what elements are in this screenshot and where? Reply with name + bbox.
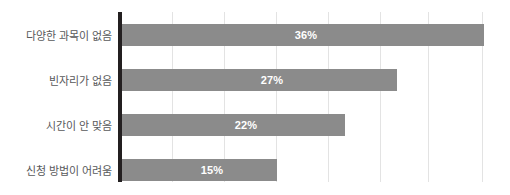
category-label-text: 다양한 과목이 없음 (26, 27, 112, 43)
bar-row: 36% (120, 12, 490, 57)
bar[interactable] (120, 69, 397, 91)
category-axis-labels: 다양한 과목이 없음 빈자리가 없음 시간이 안 맞음 신청 방법이 어려움 (0, 12, 112, 182)
bar-value-label: 22% (235, 119, 258, 131)
category-label-text: 빈자리가 없음 (49, 72, 112, 88)
bar-value-label: 36% (295, 29, 318, 41)
category-label-text: 시간이 안 맞음 (46, 117, 112, 133)
category-label: 다양한 과목이 없음 (0, 12, 112, 57)
category-label-text: 신청 방법이 어려움 (26, 162, 112, 178)
bar[interactable] (120, 114, 345, 136)
bar-row: 22% (120, 102, 490, 147)
bar-value-label: 27% (261, 74, 284, 86)
bar-rows: 36% 27% 22% 15% (120, 12, 490, 182)
bar[interactable] (120, 159, 277, 181)
category-label: 신청 방법이 어려움 (0, 147, 112, 192)
bar-value-label: 15% (201, 164, 224, 176)
bar-row: 27% (120, 57, 490, 102)
category-label: 시간이 안 맞음 (0, 102, 112, 147)
category-label: 빈자리가 없음 (0, 57, 112, 102)
plot-area: 36% 27% 22% 15% (120, 12, 490, 182)
bar-row: 15% (120, 147, 490, 192)
value-axis-line (118, 12, 122, 182)
bar-chart: 다양한 과목이 없음 빈자리가 없음 시간이 안 맞음 신청 방법이 어려움 3… (0, 0, 510, 195)
